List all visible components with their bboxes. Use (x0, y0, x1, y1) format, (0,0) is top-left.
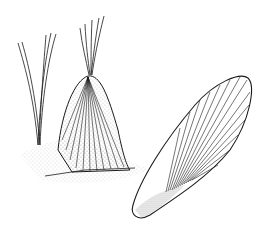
grass-tuft-center (80, 16, 104, 75)
upright-shell (58, 76, 130, 172)
illustration-canvas: Pen-and-ink stipple drawing of two fan-s… (0, 0, 266, 231)
shell-drawing (0, 0, 266, 231)
grass-tuft-left (18, 33, 56, 145)
reclining-shell (132, 76, 251, 218)
